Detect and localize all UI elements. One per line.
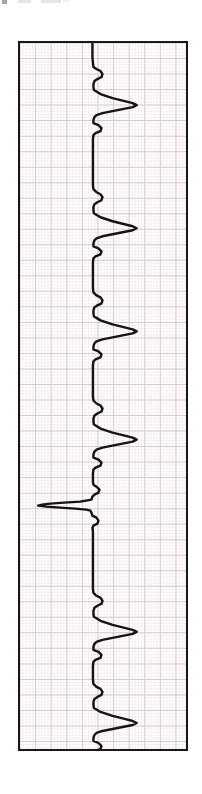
ecg-lead-trace [20,43,186,749]
ghost-mark-1 [2,0,7,4]
ecg-paper-strip [18,41,188,751]
ghost-mark-2 [18,0,31,3]
ecg-scan-page [0,0,202,794]
scanner-ghost-marks [0,0,202,10]
ghost-mark-3 [41,0,61,3]
ghost-mark-4 [63,0,69,2]
